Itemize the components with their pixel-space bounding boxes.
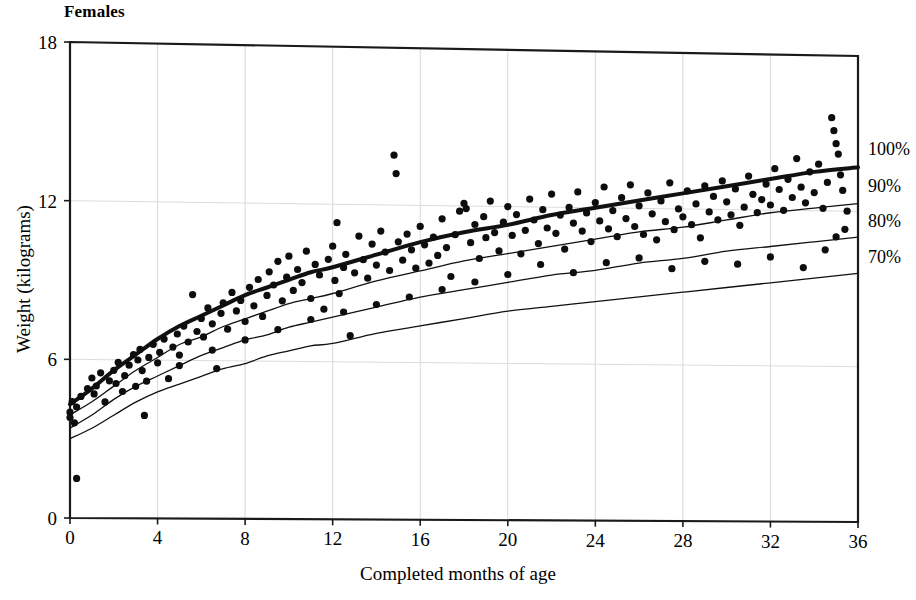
svg-text:0: 0 [65, 527, 75, 548]
legend-label-70pct: 70% [868, 247, 901, 267]
svg-text:36: 36 [849, 531, 868, 552]
svg-text:0: 0 [48, 508, 58, 529]
svg-text:6: 6 [48, 349, 58, 370]
svg-text:16: 16 [411, 529, 430, 550]
svg-text:8: 8 [240, 528, 250, 549]
svg-text:28: 28 [673, 530, 692, 551]
plot-frame [70, 42, 858, 522]
legend-label-80pct: 80% [868, 211, 901, 231]
svg-text:24: 24 [586, 530, 606, 551]
svg-text:4: 4 [153, 527, 163, 548]
svg-text:12: 12 [323, 528, 342, 549]
scatter-points [66, 114, 850, 482]
svg-text:18: 18 [38, 32, 57, 53]
legend: 100%90%80%70% [868, 139, 910, 267]
svg-text:32: 32 [761, 531, 780, 552]
x-axis-ticks: 04812162024283236 [65, 518, 867, 552]
chart-page: Females Weight (kilograms) Completed mon… [0, 0, 916, 600]
legend-label-100pct: 100% [868, 139, 910, 159]
gridlines [70, 44, 858, 522]
svg-text:12: 12 [38, 191, 57, 212]
y-axis-ticks: 061218 [38, 32, 70, 529]
chart-plot-area: 04812162024283236 061218 100%90%80%70% [0, 0, 916, 600]
svg-text:20: 20 [498, 529, 517, 550]
legend-label-90pct: 90% [868, 176, 901, 196]
